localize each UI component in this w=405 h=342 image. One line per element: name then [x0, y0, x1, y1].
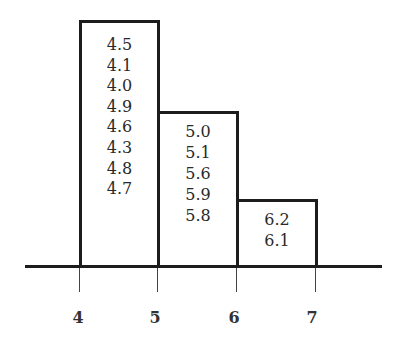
- tick-label-5: 5: [140, 308, 170, 327]
- bin-4-5: 4.5 4.1 4.0 4.9 4.6 4.3 4.8 4.7: [79, 20, 160, 266]
- tick-label-7: 7: [297, 308, 327, 327]
- tick-6: [236, 268, 237, 292]
- bin-values: 6.2 6.1: [239, 209, 315, 251]
- tick-label-4: 4: [63, 308, 93, 327]
- bin-6-7: 6.2 6.1: [236, 199, 318, 266]
- tick-7: [315, 268, 316, 292]
- bin-values: 4.5 4.1 4.0 4.9 4.6 4.3 4.8 4.7: [82, 35, 157, 200]
- bin-values: 5.0 5.1 5.6 5.9 5.8: [160, 121, 236, 226]
- tick-5: [157, 268, 158, 292]
- bin-5-6: 5.0 5.1 5.6 5.9 5.8: [157, 111, 239, 266]
- tick-label-6: 6: [219, 308, 249, 327]
- tick-4: [79, 268, 80, 292]
